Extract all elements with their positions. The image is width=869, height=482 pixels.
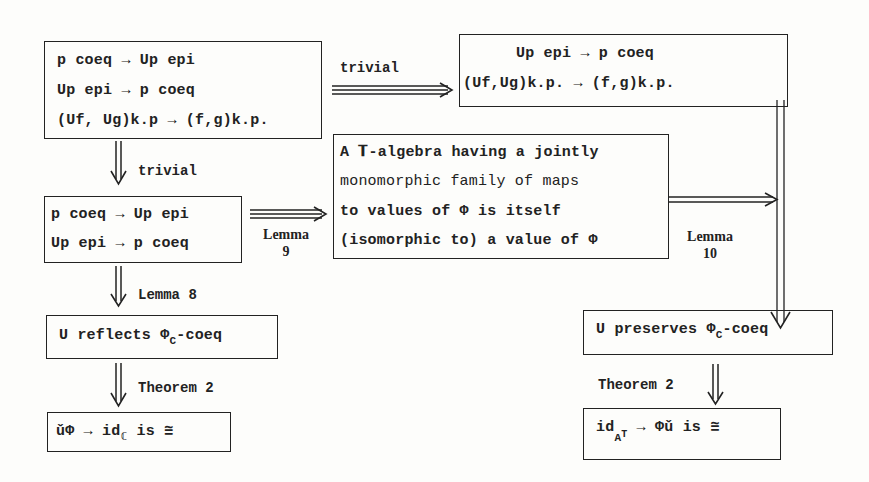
double-arrow-right-icon bbox=[250, 206, 330, 222]
arrow-label-trivial-top: trivial bbox=[340, 60, 399, 76]
arrow-label-lemma-9: Lemma 9 bbox=[258, 226, 314, 260]
box-bottom-right-iso: idAT → Φǔ is ≅ bbox=[583, 408, 781, 460]
box-mid-left-line-2: Up epi → p coeq bbox=[51, 235, 189, 252]
reflects-suffix: -coeq bbox=[176, 327, 222, 344]
double-arrow-down-icon bbox=[707, 364, 725, 406]
arrow-label-lemma-10: Lemma 10 bbox=[680, 228, 740, 262]
box-u-preserves-text: U preserves ΦC-coeq bbox=[596, 321, 768, 338]
box-bottom-left-text: ǔΦ → idℂ is ≅ bbox=[56, 421, 173, 440]
box-bottom-right-text: idAT → Φǔ is ≅ bbox=[596, 417, 719, 436]
bottom-right-suffix: → Φǔ is ≅ bbox=[627, 419, 719, 436]
double-arrow-down-icon bbox=[110, 363, 128, 408]
double-arrow-down-icon bbox=[110, 141, 128, 186]
box-top-right-conditions: Up epi → p coeq (Uf,Ug)k.p. → (f,g)k.p. bbox=[459, 34, 788, 107]
bottom-left-suffix: is ≅ bbox=[127, 423, 173, 440]
double-arrow-right-icon bbox=[332, 82, 457, 98]
arrow-label-theorem-2-left: Theorem 2 bbox=[138, 380, 214, 396]
box-center-statement: A 𝐓-algebra having a jointly monomorphic… bbox=[333, 134, 669, 259]
box-mid-left-conditions: p coeq → Up epi Up epi → p coeq bbox=[44, 196, 242, 263]
box-top-left-line-1: p coeq → Up epi bbox=[57, 52, 195, 69]
double-arrow-down-icon bbox=[110, 266, 128, 308]
box-u-reflects: U reflects ΦC-coeq bbox=[46, 315, 278, 359]
double-arrow-right-icon bbox=[669, 192, 784, 208]
bottom-right-prefix: id bbox=[596, 419, 614, 436]
reflects-prefix: U reflects Φ bbox=[59, 327, 169, 344]
bottom-right-superscript: T bbox=[621, 429, 627, 440]
arrow-label-lemma-8: Lemma 8 bbox=[138, 287, 197, 303]
box-top-right-line-2: (Uf,Ug)k.p. → (f,g)k.p. bbox=[463, 75, 675, 92]
double-arrow-down-icon bbox=[769, 100, 791, 332]
box-center-line-2: monomorphic family of maps bbox=[340, 173, 579, 190]
box-bottom-left-iso: ǔΦ → idℂ is ≅ bbox=[47, 412, 231, 452]
box-u-preserves: U preserves ΦC-coeq bbox=[583, 310, 833, 355]
box-u-reflects-text: U reflects ΦC-coeq bbox=[59, 327, 222, 344]
box-top-left-line-3: (Uf, Ug)k.p → (f,g)k.p. bbox=[57, 112, 269, 129]
box-center-line-4: (isomorphic to) a value of Φ bbox=[340, 232, 598, 249]
arrow-label-lemma-9-word: Lemma bbox=[258, 226, 314, 243]
box-top-left-conditions: p coeq → Up epi Up epi → p coeq (Uf, Ug)… bbox=[44, 41, 322, 139]
arrow-label-trivial-left: trivial bbox=[138, 163, 197, 179]
arrow-label-theorem-2-right: Theorem 2 bbox=[598, 377, 674, 393]
preserves-suffix: -coeq bbox=[722, 321, 768, 338]
arrow-label-lemma-10-number: 10 bbox=[680, 245, 740, 262]
bottom-left-subscript: ℂ bbox=[120, 431, 127, 443]
box-center-line-3: to values of Φ is itself bbox=[340, 203, 561, 220]
reflects-subscript: C bbox=[169, 335, 176, 347]
arrow-label-lemma-10-word: Lemma bbox=[680, 228, 740, 245]
box-mid-left-line-1: p coeq → Up epi bbox=[51, 206, 189, 223]
bottom-left-prefix: ǔΦ → id bbox=[56, 423, 120, 440]
preserves-prefix: U preserves Φ bbox=[596, 321, 716, 338]
box-top-right-line-1: Up epi → p coeq bbox=[516, 45, 654, 62]
preserves-subscript: C bbox=[716, 329, 723, 341]
box-top-left-line-2: Up epi → p coeq bbox=[57, 82, 195, 99]
arrow-label-lemma-9-number: 9 bbox=[258, 243, 314, 260]
box-center-line-1: A 𝐓-algebra having a jointly bbox=[340, 143, 599, 161]
